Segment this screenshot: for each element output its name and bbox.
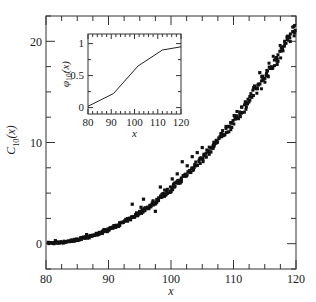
data-point [199, 162, 202, 165]
data-point [205, 155, 208, 158]
data-point-outlier [154, 210, 157, 213]
data-point [293, 31, 296, 34]
data-point [255, 92, 258, 95]
data-point [240, 106, 243, 109]
data-point [293, 34, 296, 37]
data-point [239, 115, 242, 118]
inset-y-tick-label: 1 [79, 37, 85, 49]
data-point [221, 129, 224, 132]
data-point-outlier [171, 177, 174, 180]
data-point-outlier [85, 233, 88, 236]
data-point [166, 188, 169, 191]
data-point [260, 87, 263, 90]
data-point [257, 82, 260, 85]
inset-frame [88, 34, 181, 114]
data-point [252, 94, 255, 97]
data-point [245, 105, 248, 108]
inset-x-tick-label: 120 [173, 116, 190, 128]
inset-x-tick-label: 80 [83, 116, 95, 128]
data-point-outlier [124, 218, 127, 221]
data-point [180, 180, 183, 183]
main-y-tick-label: 10 [30, 136, 42, 150]
data-point [243, 111, 246, 114]
data-point-outlier [186, 164, 189, 167]
data-point [273, 64, 276, 67]
data-point [118, 224, 121, 227]
data-point-outlier [176, 172, 179, 175]
data-point-outlier [196, 151, 199, 154]
data-point [256, 87, 259, 90]
main-y-axis-title: C10(x) [4, 125, 21, 155]
data-point [268, 62, 271, 65]
data-point [285, 42, 288, 45]
data-point [279, 44, 282, 47]
data-point-outlier [258, 71, 261, 74]
main-x-axis-title: x [167, 284, 174, 298]
data-point [230, 126, 233, 129]
main-x-tick-label: 80 [40, 272, 52, 286]
data-point [267, 75, 270, 78]
data-point [226, 131, 229, 134]
data-point [157, 199, 160, 202]
data-point [210, 151, 213, 154]
main-x-tick-label: 90 [103, 272, 115, 286]
data-point [232, 122, 235, 125]
data-point [233, 114, 236, 117]
inset-x-tick-label: 90 [106, 116, 118, 128]
data-point [279, 56, 282, 59]
data-point [276, 53, 279, 56]
data-point [281, 47, 284, 50]
data-point [266, 69, 269, 72]
data-point-outlier [142, 198, 145, 201]
data-point [289, 40, 292, 43]
data-point-outlier [139, 206, 142, 209]
data-point-outlier [103, 228, 106, 231]
data-point-outlier [163, 188, 166, 191]
inset-x-axis-title: x [131, 127, 137, 139]
data-point [293, 24, 296, 27]
inset-x-tick-label: 110 [150, 116, 167, 128]
data-point [283, 45, 286, 48]
data-point [216, 140, 219, 143]
data-point [174, 185, 177, 188]
data-point [236, 116, 239, 119]
data-point [277, 60, 280, 63]
data-point [202, 160, 205, 163]
data-point-outlier [191, 155, 194, 158]
data-point [196, 164, 199, 167]
data-point [248, 99, 251, 102]
data-point [227, 125, 230, 128]
data-point-outlier [201, 146, 204, 149]
inset-y-tick-label: 0 [79, 101, 85, 113]
data-point [276, 63, 279, 66]
data-point-outlier [131, 203, 134, 206]
data-point [186, 174, 189, 177]
data-point [263, 77, 266, 80]
data-point [170, 187, 173, 190]
main-y-tick-label: 0 [36, 237, 42, 251]
data-point [201, 157, 204, 160]
chart: 809010011012001020xC10(x) 80901001101200… [0, 0, 316, 302]
data-point-outlier [54, 239, 57, 242]
data-point [223, 134, 226, 137]
data-point-outlier [159, 185, 162, 188]
main-x-tick-label: 120 [287, 272, 305, 286]
data-point [249, 92, 252, 95]
data-point-outlier [181, 160, 184, 163]
main-y-tick-label: 20 [30, 35, 42, 49]
data-point [194, 160, 197, 163]
data-point [189, 171, 192, 174]
data-point [235, 110, 238, 113]
main-x-tick-label: 110 [225, 272, 243, 286]
data-point [263, 81, 266, 84]
